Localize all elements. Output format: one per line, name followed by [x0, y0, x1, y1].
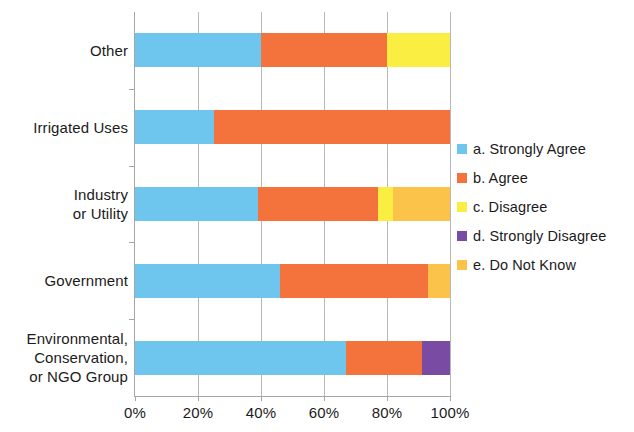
- y-axis-category-label: Other: [2, 41, 128, 60]
- category-label-line: Industry: [2, 185, 128, 204]
- y-axis-tick: [129, 89, 135, 90]
- bar-segment: [135, 33, 261, 67]
- bar-segment: [378, 187, 394, 221]
- x-axis-tick-label: 80%: [352, 404, 422, 421]
- bar-segment: [428, 264, 450, 298]
- x-axis-tick: [261, 396, 262, 401]
- bar-row: [135, 341, 450, 375]
- y-axis-category-label: Industryor Utility: [2, 185, 128, 223]
- category-label-line: Environmental,: [2, 329, 128, 348]
- x-axis-tick-label: 40%: [226, 404, 296, 421]
- category-label-line: Irrigated Uses: [2, 118, 128, 137]
- bar-row: [135, 187, 450, 221]
- legend-label: a. Strongly Agree: [473, 141, 586, 157]
- x-axis-tick: [198, 396, 199, 401]
- legend: a. Strongly Agreeb. Agreec. Disagreed. S…: [457, 134, 634, 279]
- y-axis-category-label: Irrigated Uses: [2, 118, 128, 137]
- bar-segment: [261, 33, 387, 67]
- legend-label: b. Agree: [473, 170, 528, 186]
- category-label-line: Other: [2, 41, 128, 60]
- y-axis-category-label: Government: [2, 271, 128, 290]
- bar-segment: [135, 341, 346, 375]
- legend-swatch-icon: [457, 173, 467, 183]
- category-label-line: Conservation,: [2, 348, 128, 367]
- x-axis-tick-label: 20%: [163, 404, 233, 421]
- legend-item[interactable]: a. Strongly Agree: [457, 134, 634, 163]
- legend-label: d. Strongly Disagree: [473, 228, 606, 244]
- stacked-bar-chart: OtherIrrigated UsesIndustryor UtilityGov…: [0, 0, 634, 432]
- bar-segment: [346, 341, 422, 375]
- bar-segment: [280, 264, 428, 298]
- y-axis-tick: [129, 319, 135, 320]
- legend-swatch-icon: [457, 231, 467, 241]
- bar-row: [135, 33, 450, 67]
- x-axis-tick-label: 60%: [289, 404, 359, 421]
- bar-segment: [135, 187, 258, 221]
- bar-segment: [387, 33, 450, 67]
- bar-segment: [135, 264, 280, 298]
- x-axis-tick: [324, 396, 325, 401]
- legend-item[interactable]: b. Agree: [457, 163, 634, 192]
- x-axis-tick-label: 100%: [415, 404, 485, 421]
- x-axis-tick-label: 0%: [100, 404, 170, 421]
- legend-item[interactable]: e. Do Not Know: [457, 250, 634, 279]
- bar-segment: [135, 110, 214, 144]
- x-axis-line: [135, 396, 451, 397]
- y-axis-category-labels: OtherIrrigated UsesIndustryor UtilityGov…: [0, 0, 128, 432]
- legend-item[interactable]: c. Disagree: [457, 192, 634, 221]
- legend-label: c. Disagree: [473, 199, 547, 215]
- y-axis-tick: [129, 242, 135, 243]
- bar-segment: [214, 110, 450, 144]
- bar-row: [135, 110, 450, 144]
- gridline: [450, 12, 451, 396]
- category-label-line: or NGO Group: [2, 367, 128, 386]
- category-label-line: Government: [2, 271, 128, 290]
- bar-segment: [393, 187, 450, 221]
- y-axis-tick: [129, 166, 135, 167]
- x-axis-tick: [387, 396, 388, 401]
- bar-row: [135, 264, 450, 298]
- x-axis-tick: [135, 396, 136, 401]
- legend-swatch-icon: [457, 144, 467, 154]
- legend-swatch-icon: [457, 260, 467, 270]
- legend-label: e. Do Not Know: [473, 257, 576, 273]
- y-axis-category-label: Environmental,Conservation,or NGO Group: [2, 329, 128, 386]
- category-label-line: or Utility: [2, 204, 128, 223]
- x-axis-tick: [450, 396, 451, 401]
- bar-segment: [258, 187, 378, 221]
- bar-segment: [422, 341, 450, 375]
- legend-swatch-icon: [457, 202, 467, 212]
- legend-item[interactable]: d. Strongly Disagree: [457, 221, 634, 250]
